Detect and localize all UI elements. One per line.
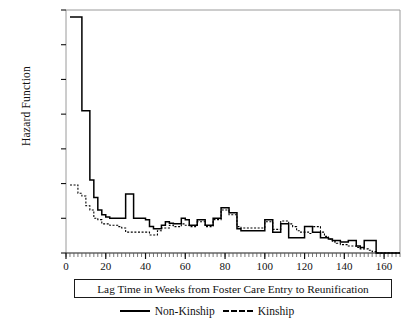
x-axis-title-box: Lag Time in Weeks from Foster Care Entry… bbox=[74, 279, 392, 298]
x-tick-label: 20 bbox=[100, 260, 111, 272]
x-tick-label: 60 bbox=[180, 260, 191, 272]
y-axis-title: Hazard Function bbox=[20, 36, 32, 176]
legend-label-non-kinship: Non-Kinship bbox=[155, 305, 215, 317]
x-tick-label: 100 bbox=[257, 260, 274, 272]
legend-line-dashed-icon bbox=[223, 310, 253, 312]
chart-legend: Non-Kinship Kinship bbox=[0, 302, 414, 320]
x-tick-label: 0 bbox=[63, 260, 69, 272]
legend-label-kinship: Kinship bbox=[258, 305, 294, 317]
x-tick-label: 40 bbox=[140, 260, 151, 272]
legend-item-kinship: Kinship bbox=[223, 305, 294, 317]
x-tick-label: 80 bbox=[220, 260, 231, 272]
x-axis-title: Lag Time in Weeks from Foster Care Entry… bbox=[97, 283, 369, 295]
x-axis-tick-labels: 020406080100120140160 bbox=[0, 0, 414, 323]
x-tick-label: 140 bbox=[336, 260, 353, 272]
x-tick-label: 120 bbox=[296, 260, 313, 272]
hazard-function-chart: 00.0050.010.0150.020.0250.030.035 020406… bbox=[0, 0, 414, 323]
x-tick-label: 160 bbox=[376, 260, 393, 272]
legend-item-non-kinship: Non-Kinship bbox=[120, 305, 215, 317]
legend-line-solid-icon bbox=[120, 310, 150, 312]
